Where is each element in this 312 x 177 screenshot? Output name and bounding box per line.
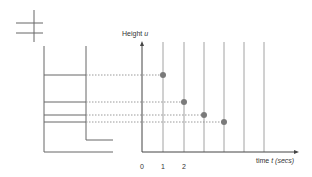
data-points xyxy=(160,72,227,125)
y-axis-label: Height u xyxy=(122,30,148,37)
grid-lines xyxy=(163,42,264,152)
y-axis-arrow-icon xyxy=(140,41,144,46)
tick-label-0: 0 xyxy=(140,163,144,170)
tick-label-2: 2 xyxy=(182,163,186,170)
axes xyxy=(142,45,295,152)
x-axis-arrow-icon xyxy=(294,150,299,154)
tank xyxy=(44,46,113,152)
x-axis-label: time t (secs) xyxy=(256,157,294,164)
water-levels xyxy=(44,75,86,122)
diagram: Height u time t (secs) 0 1 2 xyxy=(0,0,312,177)
tick-label-1: 1 xyxy=(161,163,165,170)
hash-icon xyxy=(16,10,43,42)
